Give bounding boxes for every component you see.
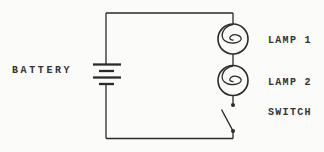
lamp2-label: LAMP 2 [268, 78, 312, 88]
battery-label: BATTERY [12, 66, 72, 76]
lamp1-icon [218, 24, 248, 54]
battery-icon [93, 65, 121, 85]
switch-open-icon [222, 103, 236, 133]
lamp2-icon [218, 66, 248, 96]
switch-label: SWITCH [268, 108, 312, 118]
lamp1-filament [222, 25, 241, 44]
circuit-drawing [0, 0, 324, 152]
switch-blade [222, 110, 234, 132]
lamp2-filament [222, 66, 241, 85]
lamp1-label: LAMP 1 [268, 36, 312, 46]
switch-terminal-top [231, 103, 235, 107]
circuit-diagram: BATTERY LAMP 1 LAMP 2 SWITCH [0, 0, 324, 152]
switch-terminal-bottom [231, 129, 235, 133]
